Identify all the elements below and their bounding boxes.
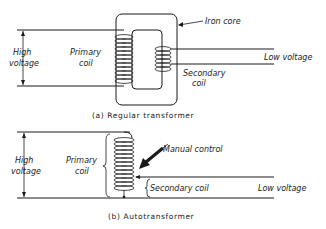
iron-core-label: Iron core — [205, 17, 241, 26]
auto-low-voltage-label: Low voltage — [258, 184, 306, 193]
auto-high-voltage-label: High — [15, 156, 33, 165]
regular-transformer-diagram: High voltage Primary coil — [9, 14, 312, 120]
high-voltage-label-2: voltage — [9, 59, 39, 68]
primary-coil-windings — [115, 35, 133, 84]
high-voltage-arrow — [21, 31, 25, 85]
auto-primary-coil-label-2: coil — [75, 167, 90, 176]
secondary-coil-label: Secondary — [183, 69, 226, 78]
secondary-coil-windings — [155, 47, 171, 72]
autotransformer-diagram: High voltage Primary coil — [11, 132, 306, 221]
auto-high-voltage-arrow — [22, 133, 26, 197]
primary-coil-brace — [103, 134, 110, 197]
caption-regular-transformer: (a) Regular transformer — [92, 111, 195, 120]
caption-autotransformer: (b) Autotransformer — [108, 212, 195, 221]
autotransformer-coil-windings — [114, 138, 134, 191]
auto-primary-coil-label: Primary — [66, 156, 97, 165]
manual-control-arrow — [146, 148, 163, 162]
primary-coil-label: Primary — [70, 48, 101, 57]
manual-control-label: Manual control — [163, 145, 223, 154]
iron-core-inner — [132, 30, 162, 89]
high-voltage-label: High — [13, 48, 31, 57]
auto-secondary-coil-label: Secondary coil — [150, 184, 209, 193]
auto-top-wire-bend — [124, 132, 132, 138]
low-voltage-label: Low voltage — [264, 53, 312, 62]
secondary-coil-label-2: coil — [192, 79, 207, 88]
auto-high-voltage-label-2: voltage — [11, 167, 41, 176]
primary-coil-label-2: coil — [79, 59, 94, 68]
